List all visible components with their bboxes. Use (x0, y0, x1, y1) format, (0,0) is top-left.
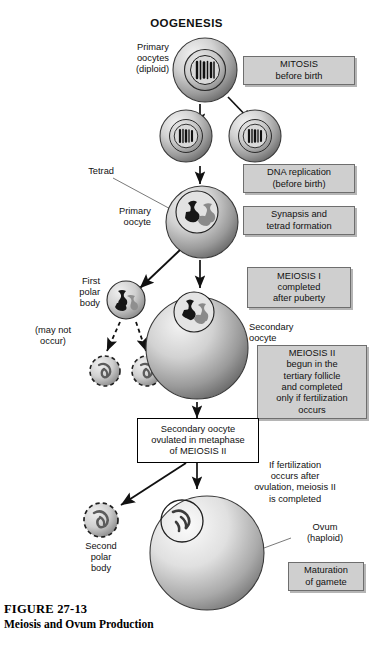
label-primary-oocytes: Primary oocytes (diploid) (97, 42, 169, 76)
figure-caption-title: Meiosis and Ovum Production (4, 618, 154, 630)
cell-daughter-left (160, 110, 212, 162)
callout-maturation: Maturation of gamete (288, 562, 364, 591)
figure-title: OOGENESIS (0, 18, 373, 29)
label-if-fertilization: If fertilization occurs after ovulation,… (217, 460, 373, 505)
callout-meiosis-1: MEIOSIS I completed after puberty (247, 267, 351, 308)
label-first-polar-body: First polar body (52, 276, 100, 310)
cell-degenerate-polar-body-1 (90, 356, 120, 386)
callout-mitosis: MITOSIS before birth (243, 56, 355, 85)
label-primary-oocyte: Primary oocyte (85, 206, 151, 228)
callout-ovulated: Secondary oocyte ovulated in metaphase o… (137, 418, 259, 463)
figure-caption-id: FIGURE 27-13 (4, 602, 87, 617)
label-secondary-oocyte: Secondary oocyte (249, 322, 325, 344)
arrow-degenerate-left (107, 322, 120, 351)
cell-primary-oocyte-top (173, 38, 237, 102)
label-second-polar-body: Second polar body (62, 541, 140, 575)
callout-meiosis-2: MEIOSIS II begun in the tertiary follicl… (257, 345, 367, 419)
cell-primary-oocyte-tetrad (166, 186, 238, 258)
cell-first-polar-body (107, 281, 145, 319)
arrow-degenerate-right (136, 322, 146, 351)
oogenesis-figure: OOGENESIS Primary oocytes (diploid) Tetr… (0, 0, 373, 646)
label-ovum: Ovum (haploid) (291, 522, 359, 544)
arrow-to-first-polar-body (140, 250, 180, 288)
cell-second-polar-body (84, 503, 118, 537)
leader-line-ovum (264, 538, 291, 548)
cell-secondary-oocyte (146, 292, 248, 399)
cell-daughter-right (229, 110, 281, 162)
callout-dna-replication: DNA replication (before birth) (243, 164, 355, 193)
arrow-to-second-polar-body (121, 463, 186, 505)
cell-ovum (150, 496, 264, 610)
label-tetrad: Tetrad (58, 166, 114, 177)
label-may-not-occur: (may not occur) (22, 325, 84, 347)
callout-synapsis: Synapsis and tetrad formation (243, 206, 355, 235)
